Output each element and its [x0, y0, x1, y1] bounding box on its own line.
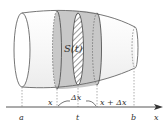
label-x-left: x	[48, 98, 53, 107]
label-section-area: S(t)	[64, 43, 83, 54]
label-a: a	[19, 113, 24, 122]
label-delta: Δx	[70, 93, 82, 102]
label-t: t	[76, 113, 80, 122]
left-end-ellipse	[14, 13, 30, 87]
label-axis-x: x	[154, 113, 159, 122]
label-b: b	[131, 113, 136, 122]
right-end-front	[135, 27, 138, 68]
label-x-right: x + Δx	[100, 98, 127, 107]
solid-volume-diagram: S(t) x Δx x + Δx a t b x	[0, 0, 168, 126]
